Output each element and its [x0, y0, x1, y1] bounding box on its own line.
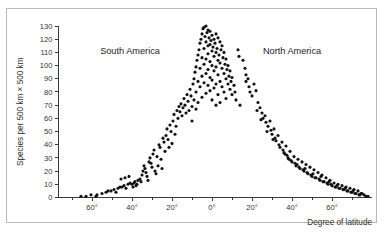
data-point	[133, 180, 136, 183]
data-point	[319, 175, 322, 178]
data-point	[200, 96, 203, 99]
data-point	[222, 51, 225, 54]
y-tick-label: 50	[44, 127, 52, 136]
data-point	[327, 180, 330, 183]
data-point	[296, 158, 299, 161]
data-point	[179, 102, 182, 105]
data-point	[162, 141, 165, 144]
data-point	[218, 61, 221, 64]
scatter-plot: 010203040506070809010011012013060°40°20°…	[0, 0, 390, 242]
region-label-south-america: South America	[100, 46, 161, 56]
data-point	[326, 183, 329, 186]
data-point	[224, 77, 227, 80]
y-tick-label: 70	[44, 101, 52, 110]
data-point	[274, 139, 277, 142]
data-point	[277, 143, 280, 146]
data-point	[288, 150, 291, 153]
data-point	[208, 89, 211, 92]
y-tick-label: 80	[44, 88, 52, 97]
data-point	[252, 83, 255, 86]
x-axis-title: Degree of latitude	[307, 218, 372, 227]
data-point	[300, 160, 303, 163]
data-point	[214, 32, 217, 35]
data-point	[214, 83, 217, 86]
y-tick-label: 30	[44, 154, 52, 163]
x-tick-label: 0°	[208, 203, 215, 212]
data-point	[223, 63, 226, 66]
data-point	[237, 55, 240, 58]
data-point	[308, 166, 311, 169]
data-point	[204, 24, 207, 27]
data-point	[215, 47, 218, 50]
data-point	[190, 119, 193, 122]
data-point	[218, 40, 221, 43]
y-tick-label: 0	[48, 193, 52, 202]
data-point	[173, 133, 176, 136]
data-point	[152, 148, 155, 151]
data-point	[224, 97, 227, 100]
data-point	[178, 110, 181, 113]
data-point	[247, 85, 250, 88]
data-point	[306, 172, 309, 175]
data-point	[204, 40, 207, 43]
data-point	[174, 125, 177, 128]
data-point	[208, 43, 211, 46]
data-point	[259, 118, 262, 121]
data-point	[142, 164, 145, 167]
data-point	[210, 79, 213, 82]
data-point	[283, 152, 286, 155]
data-point	[158, 146, 161, 149]
data-point	[163, 150, 166, 153]
data-point	[204, 92, 207, 95]
data-point	[238, 104, 241, 107]
plot-svg: 010203040506070809010011012013060°40°20°…	[0, 0, 390, 242]
data-point	[119, 177, 122, 180]
data-point	[196, 80, 199, 83]
data-point	[206, 84, 209, 87]
data-point	[348, 187, 351, 190]
data-point	[184, 112, 187, 115]
data-point	[145, 175, 148, 178]
data-point	[196, 101, 199, 104]
region-label-north-america: North America	[263, 46, 322, 56]
data-point	[340, 184, 343, 187]
data-point	[198, 67, 201, 70]
data-point	[280, 141, 283, 144]
data-point	[114, 191, 117, 194]
data-point	[265, 130, 268, 133]
data-point	[220, 85, 223, 88]
data-point	[256, 101, 259, 104]
data-point	[248, 90, 251, 93]
data-point	[227, 75, 230, 78]
data-point	[218, 80, 221, 83]
data-point	[202, 81, 205, 84]
y-tick-label: 130	[40, 22, 53, 31]
y-tick-label: 20	[44, 167, 52, 176]
data-point	[295, 163, 298, 166]
data-point	[156, 164, 159, 167]
data-point	[268, 119, 271, 122]
data-point	[195, 59, 198, 62]
data-point	[191, 83, 194, 86]
data-point	[193, 71, 196, 74]
data-point	[194, 108, 197, 111]
data-point	[281, 148, 284, 151]
x-tick-label: 60°	[326, 203, 337, 212]
data-point	[200, 75, 203, 78]
data-point	[214, 65, 217, 68]
data-point	[292, 155, 295, 158]
x-tick-label: 40°	[126, 203, 137, 212]
data-point	[212, 69, 215, 72]
data-point	[204, 72, 207, 75]
data-point	[224, 57, 227, 60]
data-point	[148, 156, 151, 159]
data-point	[186, 100, 189, 103]
y-tick-label: 110	[40, 48, 52, 57]
data-point	[192, 77, 195, 80]
data-point	[141, 170, 144, 173]
data-point	[366, 195, 369, 198]
data-point	[185, 93, 188, 96]
data-point	[214, 51, 217, 54]
data-point	[230, 93, 233, 96]
y-tick-label: 60	[44, 114, 52, 123]
